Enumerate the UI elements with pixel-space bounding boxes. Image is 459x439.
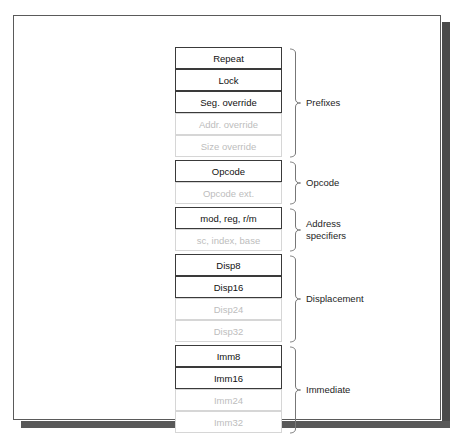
field-box[interactable]: mod, reg, r/m [175, 207, 282, 229]
field-box[interactable]: Disp8 [175, 254, 282, 276]
group-brace-icon [288, 255, 302, 343]
field-box[interactable]: Imm16 [175, 367, 282, 389]
group-label-displacement: Displacement [306, 293, 364, 305]
field-box[interactable]: Addr. override [175, 113, 282, 135]
instruction-format-diagram: RepeatLockSeg. overrideAddr. overrideSiz… [14, 16, 442, 421]
figure-shadow-right [442, 22, 450, 427]
field-box[interactable]: Imm32 [175, 411, 282, 433]
field-box[interactable]: Seg. override [175, 91, 282, 113]
field-box[interactable]: Imm24 [175, 389, 282, 411]
figure-frame: RepeatLockSeg. overrideAddr. overrideSiz… [13, 15, 441, 420]
field-box[interactable]: Imm8 [175, 345, 282, 367]
field-box[interactable]: Size override [175, 135, 282, 157]
field-box[interactable]: Lock [175, 69, 282, 91]
field-box[interactable]: Repeat [175, 47, 282, 69]
group-brace-icon [288, 208, 302, 252]
field-box[interactable]: Opcode [175, 160, 282, 182]
field-box[interactable]: Disp32 [175, 320, 282, 342]
group-label-immediate: Immediate [306, 384, 350, 396]
field-box[interactable]: Disp16 [175, 276, 282, 298]
group-label-address-specifiers: Address specifiers [306, 218, 346, 241]
group-brace-icon [288, 346, 302, 434]
group-label-opcode: Opcode [306, 177, 339, 189]
field-box[interactable]: sc, index, base [175, 229, 282, 251]
group-brace-icon [288, 161, 302, 205]
group-brace-icon [288, 48, 302, 158]
field-box[interactable]: Disp24 [175, 298, 282, 320]
group-label-prefixes: Prefixes [306, 97, 340, 109]
field-box[interactable]: Opcode ext. [175, 182, 282, 204]
